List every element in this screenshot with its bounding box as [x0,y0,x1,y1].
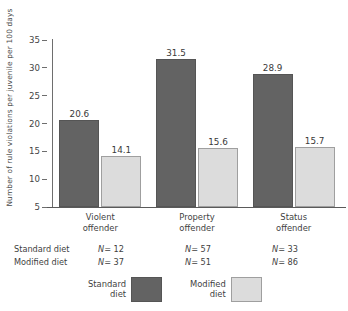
sample-size-value: N= 37 [98,256,124,269]
sample-size-value: N= 51 [185,256,211,269]
y-tick: 15 [0,146,52,156]
category-label: Statusoffender [249,212,339,234]
category-label: Propertyoffender [152,212,242,234]
sample-size-variable: N [272,244,278,254]
bar-standard-diet: 28.9 [253,74,293,207]
legend-label: Modifieddiet [190,279,226,300]
legend-entry[interactable]: Standarddiet [88,274,162,304]
bar-value-label: 20.6 [70,109,90,119]
bar-value-label: 31.5 [166,48,186,58]
sample-size-row: Standard dietN= 12N= 57N= 33 [0,243,348,256]
category-label-line: Property [152,212,242,223]
y-tick: 30 [0,63,52,73]
bar-standard-diet: 31.5 [156,59,196,207]
legend-swatch [131,277,162,302]
y-tick-label: 5 [35,202,40,212]
y-tick-mark [42,179,47,180]
category-label-line: Status [249,212,339,223]
y-tick: 20 [0,119,52,129]
sample-size-variable: N [98,244,104,254]
category-label-line: offender [152,223,242,234]
legend-swatch [231,277,262,302]
y-tick-label: 15 [29,146,40,156]
sample-size-value: N= 86 [272,256,298,269]
sample-size-row-label: Standard diet [14,243,92,256]
sample-size-variable: N [185,244,191,254]
category-label-line: offender [55,223,145,234]
y-tick-label: 35 [29,35,40,45]
sample-size-row: Modified dietN= 37N= 51N= 86 [0,256,348,269]
y-tick: 10 [0,174,52,184]
sample-size-value: N= 57 [185,243,211,256]
bar-chart-figure: Number of rule violations per juvenile p… [0,0,348,311]
plot-area: 20.614.131.515.628.915.7 [52,40,342,207]
bar-modified-diet: 15.6 [198,148,238,207]
sample-size-value: N= 33 [272,243,298,256]
y-tick-mark [42,207,47,208]
sample-size-row-label: Modified diet [14,256,92,269]
category-label-line: Violent [55,212,145,223]
sample-size-variable: N [185,257,191,267]
legend-label-line: Modified [190,279,226,290]
legend-label: Standarddiet [88,279,126,300]
x-axis-line [44,207,346,208]
sample-size-annotations: Standard dietN= 12N= 57N= 33Modified die… [0,243,348,269]
bar-value-label: 28.9 [263,63,283,73]
bar-value-label: 14.1 [112,145,132,155]
y-tick: 35 [0,35,52,45]
legend-entry[interactable]: Modifieddiet [190,274,262,304]
sample-size-value: N= 12 [98,243,124,256]
legend-label-line: diet [88,289,126,300]
y-tick: 5 [0,202,52,212]
y-tick-mark [42,95,47,96]
y-tick-mark [42,67,47,68]
category-label: Violentoffender [55,212,145,234]
y-tick-label: 25 [29,91,40,101]
bar-value-label: 15.6 [208,137,228,147]
y-tick-label: 10 [29,174,40,184]
legend-label-line: diet [190,289,226,300]
sample-size-variable: N [272,257,278,267]
category-label-line: offender [249,223,339,234]
y-tick-mark [42,40,47,41]
y-tick-mark [42,123,47,124]
y-tick-label: 30 [29,63,40,73]
y-tick-mark [42,151,47,152]
y-tick: 25 [0,91,52,101]
bar-modified-diet: 15.7 [295,147,335,207]
sample-size-variable: N [98,257,104,267]
y-tick-label: 20 [29,119,40,129]
bar-modified-diet: 14.1 [101,156,141,207]
legend-label-line: Standard [88,279,126,290]
bar-standard-diet: 20.6 [59,120,99,207]
bar-value-label: 15.7 [305,136,325,146]
chart-legend: StandarddietModifieddiet [0,274,348,308]
